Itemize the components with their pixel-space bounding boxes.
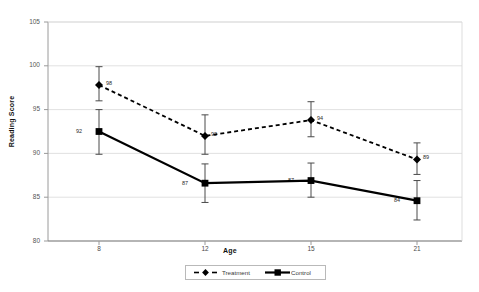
- axes: [48, 22, 462, 241]
- chart-canvas: [0, 0, 479, 292]
- legend-glyphs: [194, 269, 290, 276]
- gridlines: [48, 22, 462, 241]
- reading-score-line-chart: Reading Score Age 105 100 95 90 85 80 8 …: [0, 0, 479, 292]
